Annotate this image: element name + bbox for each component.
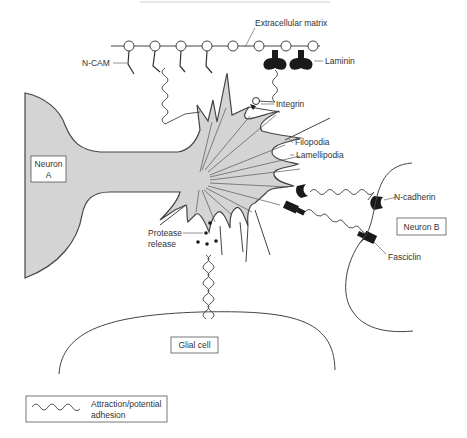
label-lamellipodia: Lamellipodia xyxy=(296,150,344,160)
cropped-title-strip xyxy=(140,1,330,3)
glial-cell-box: Glial cell xyxy=(171,337,218,353)
extracellular-matrix xyxy=(111,28,320,51)
neuron-a-box: Neuron A xyxy=(31,156,66,182)
label-filopodia: Filopodia xyxy=(295,137,330,147)
label-extracellular-matrix: Extracellular matrix xyxy=(255,18,328,28)
neuron-a-label-line1: Neuron xyxy=(35,159,63,169)
label-ncam: N-CAM xyxy=(82,58,110,68)
legend: Attraction/potential adhesion xyxy=(26,396,167,422)
neuron-b-label: Neuron B xyxy=(404,222,440,232)
growth-cone-diagram: Extracellular matrix N-CAM Laminin Integ… xyxy=(0,0,467,438)
label-protease: Protease xyxy=(148,228,182,238)
n-cadherin-molecules xyxy=(296,184,397,210)
label-release: release xyxy=(148,239,176,249)
neuron-a-label-line2: A xyxy=(46,170,52,180)
protease-dots xyxy=(183,221,218,246)
label-n-cadherin: N-cadherin xyxy=(394,192,436,202)
fasciclin-molecules xyxy=(283,200,386,254)
label-integrin: Integrin xyxy=(276,99,305,109)
integrin-molecule xyxy=(250,98,274,111)
label-laminin: Laminin xyxy=(325,56,355,66)
label-fasciclin: Fasciclin xyxy=(388,252,421,262)
neuron-b-box: Neuron B xyxy=(397,218,446,235)
legend-label-line1: Attraction/potential xyxy=(91,399,162,409)
legend-label-line2: adhesion xyxy=(91,410,126,420)
laminin-molecules xyxy=(263,50,323,70)
glial-cell-label: Glial cell xyxy=(178,340,210,350)
